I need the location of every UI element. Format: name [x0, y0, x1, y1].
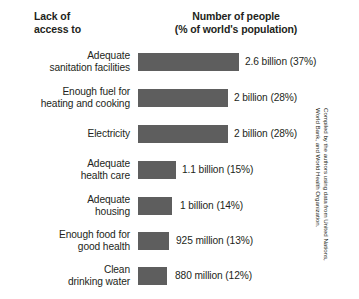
bar-value-label: 880 million (12%) — [175, 269, 252, 283]
chart-row: Adequate sanitation facilities 2.6 billi… — [0, 52, 359, 82]
bar — [138, 125, 228, 143]
bar-value-label: 925 million (13%) — [176, 234, 253, 248]
category-label: Adequate sanitation facilities — [0, 50, 130, 74]
right-column-header-line-1: Number of people — [138, 10, 334, 23]
bar-value-label: 2 billion (28%) — [234, 127, 297, 141]
source-credit-line-1: Compiled by the authors using data from … — [322, 108, 330, 298]
left-column-header-line-1: Lack of — [34, 10, 130, 23]
bar-value-label: 2 billion (28%) — [234, 91, 297, 105]
category-label-line: Adequate — [0, 158, 130, 170]
left-column-header-line-2: access to — [34, 23, 130, 36]
bar-value-label: 1 billion (14%) — [180, 199, 243, 213]
category-label-line: housing — [0, 206, 130, 218]
category-label-line: Electricity — [0, 128, 130, 140]
category-label: Clean drinking water — [0, 264, 130, 288]
category-label: Electricity — [0, 128, 130, 140]
source-credit: Compiled by the authors using data from … — [304, 108, 330, 298]
left-column-header: Lack of access to — [34, 10, 130, 35]
category-label: Adequate health care — [0, 158, 130, 182]
bar — [138, 89, 228, 107]
category-label-line: heating and cooking — [0, 98, 130, 110]
category-label-line: good health — [0, 241, 130, 253]
bar — [138, 267, 167, 285]
category-label: Enough food for good health — [0, 229, 130, 253]
category-label-line: Adequate — [0, 194, 130, 206]
bar-value-label: 2.6 billion (37%) — [245, 55, 316, 69]
category-label-line: Enough fuel for — [0, 86, 130, 98]
right-column-header: Number of people (% of world's populatio… — [138, 10, 334, 35]
category-label: Adequate housing — [0, 194, 130, 218]
category-label-line: Enough food for — [0, 229, 130, 241]
bar — [138, 161, 176, 179]
source-credit-line-2: World Bank, and World Health Organizatio… — [315, 108, 323, 298]
bar — [138, 232, 169, 250]
bar — [138, 53, 239, 71]
category-label-line: drinking water — [0, 276, 130, 288]
category-label-line: Adequate — [0, 50, 130, 62]
category-label-line: health care — [0, 170, 130, 182]
right-column-header-line-2: (% of world's population) — [138, 23, 334, 36]
bar — [138, 197, 172, 215]
bar-value-label: 1.1 billion (15%) — [182, 163, 253, 177]
category-label-line: sanitation facilities — [0, 62, 130, 74]
bar-chart: Lack of access to Number of people (% of… — [0, 0, 359, 299]
category-label: Enough fuel for heating and cooking — [0, 86, 130, 110]
category-label-line: Clean — [0, 264, 130, 276]
